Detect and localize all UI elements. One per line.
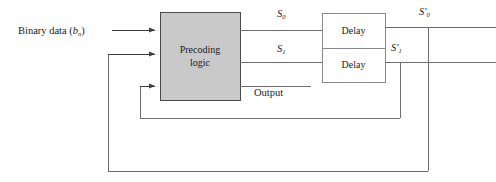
s0-subscript: 0 (282, 13, 285, 20)
delay-top-label: Delay (322, 25, 385, 38)
precoding-logic-label: Precoding logic (160, 44, 240, 69)
signal-label-s0: S0 (277, 9, 286, 20)
s1-primed-subscript: 1 (399, 47, 402, 54)
s1-subscript: 1 (282, 48, 285, 55)
precoding-logic-label-line2: logic (160, 57, 240, 70)
signal-label-s0-primed: S′0 (419, 7, 430, 18)
binary-data-subscript: n (78, 30, 81, 37)
delay-bottom-label: Delay (322, 59, 385, 72)
binary-data-label: Binary data (bn) (18, 26, 85, 37)
signal-label-s1-primed: S′1 (391, 43, 402, 54)
output-label: Output (254, 88, 283, 99)
precoding-logic-label-line1: Precoding (160, 44, 240, 57)
block-diagram-figure: Binary data (bn) S0 S1 S′0 S′1 Output Pr… (0, 0, 496, 182)
signal-label-s1: S1 (277, 44, 286, 55)
s0-primed-subscript: 0 (427, 11, 430, 18)
